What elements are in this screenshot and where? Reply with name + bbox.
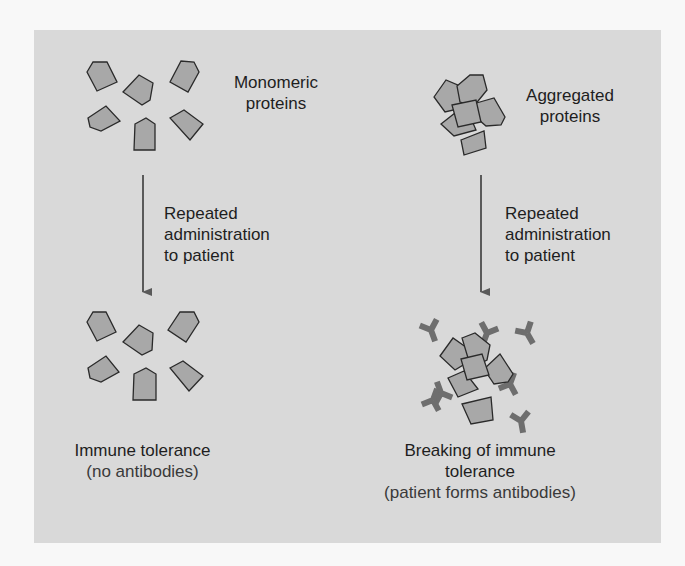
label-immune-tolerance: Immune tolerance (no antibodies) (40, 440, 245, 482)
result-title: Immune tolerance (40, 440, 245, 461)
monomeric-proteins-result-icon (87, 312, 203, 400)
label-line: Aggregated (520, 85, 620, 106)
aggregated-proteins-icon (434, 75, 505, 155)
label-aggregated-proteins: Aggregated proteins (520, 85, 620, 127)
result-subtitle: (no antibodies) (40, 461, 245, 482)
label-monomeric-proteins: Monomeric proteins (226, 72, 326, 114)
result-title: tolerance (355, 461, 605, 482)
label-repeated-administration-right: Repeated administration to patient (505, 203, 611, 266)
result-subtitle: (patient forms antibodies) (355, 482, 605, 503)
label-line: Repeated (505, 203, 611, 224)
label-line: administration (505, 224, 611, 245)
label-line: administration (164, 224, 270, 245)
label-line: Repeated (164, 203, 270, 224)
label-line: proteins (226, 93, 326, 114)
aggregated-proteins-result-icon (440, 333, 513, 424)
label-breaking-immune-tolerance: Breaking of immune tolerance (patient fo… (355, 440, 605, 503)
label-repeated-administration-left: Repeated administration to patient (164, 203, 270, 266)
label-line: proteins (520, 106, 620, 127)
monomeric-proteins-icon (87, 61, 203, 150)
label-line: Monomeric (226, 72, 326, 93)
result-title: Breaking of immune (355, 440, 605, 461)
label-line: to patient (505, 245, 611, 266)
label-line: to patient (164, 245, 270, 266)
